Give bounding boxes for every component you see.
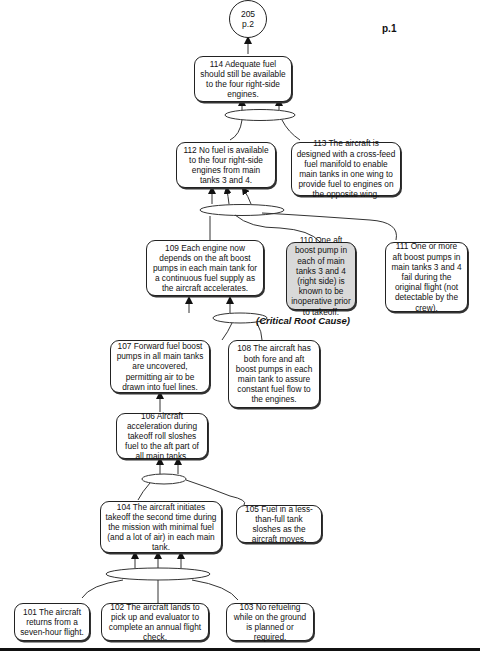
node-107: 107 Forward fuel boost pumps in all main…	[110, 340, 210, 393]
node-101: 101 The aircraft returns from a seven-ho…	[14, 603, 90, 641]
page-label: p.1	[382, 23, 396, 34]
node-106: 106 Aircraft acceleration during takeoff…	[116, 413, 208, 459]
node-102: 102 The aircraft lands to pick up and ev…	[101, 603, 209, 641]
connector-page-ref: p.2	[242, 19, 254, 29]
node-105: 105 Fuel in a less-than-full tank sloshe…	[236, 505, 322, 543]
node-105-text: 105 Fuel in a less-than-full tank sloshe…	[241, 504, 317, 545]
bottom-rule-divider	[0, 648, 480, 651]
node-114: 114 Adequate fuel should still be availa…	[194, 56, 292, 102]
fault-tree-diagram: 205 p.2 p.1 114 Adequate fuel should sti…	[0, 0, 480, 658]
node-104-text: 104 The aircraft initiates takeoff the s…	[105, 502, 217, 553]
node-107-text: 107 Forward fuel boost pumps in all main…	[115, 341, 205, 392]
node-112: 112 No fuel is available to the four rig…	[176, 142, 276, 188]
node-111: 111 One or more aft boost pumps in main …	[385, 242, 468, 312]
node-106-text: 106 Aircraft acceleration during takeoff…	[121, 411, 203, 462]
node-109: 109 Each engine now depends on the aft b…	[146, 240, 264, 296]
connector-number: 205	[241, 9, 255, 19]
node-108-text: 108 The aircraft has both fore and aft b…	[233, 343, 315, 404]
node-102-text: 102 The aircraft lands to pick up and ev…	[106, 602, 204, 643]
node-103-text: 103 No refueling while on the ground is …	[231, 602, 309, 643]
node-108: 108 The aircraft has both fore and aft b…	[228, 340, 320, 408]
node-110-critical: 110 One aft boost pump in each of main t…	[286, 242, 356, 310]
off-page-connector-205: 205 p.2	[229, 0, 267, 38]
node-114-text: 114 Adequate fuel should still be availa…	[199, 59, 287, 100]
critical-root-cause-label: (Critical Root Cause)	[256, 315, 350, 326]
node-112-text: 112 No fuel is available to the four rig…	[181, 145, 271, 186]
node-101-text: 101 The aircraft returns from a seven-ho…	[19, 607, 85, 638]
node-113-text: 113 The aircraft is designed with a cros…	[296, 138, 396, 199]
node-110-text: 110 One aft boost pump in each of main t…	[291, 235, 351, 317]
node-111-text: 111 One or more aft boost pumps in main …	[390, 241, 463, 312]
node-104: 104 The aircraft initiates takeoff the s…	[100, 501, 222, 553]
node-103: 103 No refueling while on the ground is …	[226, 603, 314, 641]
node-113: 113 The aircraft is designed with a cros…	[291, 142, 401, 196]
node-109-text: 109 Each engine now depends on the aft b…	[151, 243, 259, 294]
